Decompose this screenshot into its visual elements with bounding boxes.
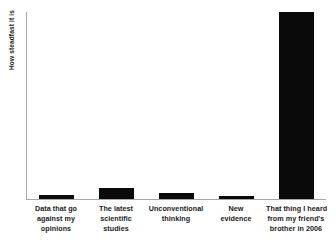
bar-slot	[266, 12, 326, 199]
plot-area	[26, 12, 326, 200]
bar-chart-figure: How steadfast it is Data that goagainst …	[0, 0, 335, 248]
x-tick-label-line: studies	[86, 224, 146, 234]
x-tick-label-line: from my friend's	[266, 214, 326, 224]
x-tick-label-0: Data that goagainst myopinions	[26, 204, 86, 235]
bar-slot	[146, 12, 206, 199]
x-tick-label-line: Unconventional	[146, 204, 206, 214]
bar-1	[99, 188, 134, 199]
bar-slot	[86, 12, 146, 199]
x-tick-label-line: opinions	[26, 224, 86, 234]
x-tick-label-3: Newevidence	[206, 204, 266, 235]
x-tick-label-line: That thing I heard	[266, 204, 326, 214]
x-tick-label-line: scientific	[86, 214, 146, 224]
bar-2	[159, 193, 194, 199]
bar-4	[279, 12, 314, 199]
x-tick-label-4: That thing I heardfrom my friend'sbrothe…	[266, 204, 326, 235]
x-tick-label-line: evidence	[206, 214, 266, 224]
bar-0	[39, 195, 74, 199]
x-tick-label-line: thinking	[146, 214, 206, 224]
x-tick-label-line: against my	[26, 214, 86, 224]
x-axis-tick-labels: Data that goagainst myopinions The lates…	[26, 204, 326, 235]
x-tick-label-line: brother in 2006	[266, 224, 326, 234]
x-tick-label-2: Unconventionalthinking	[146, 204, 206, 235]
bar-slot	[206, 12, 266, 199]
x-axis-spine	[26, 199, 326, 200]
bar-3	[219, 196, 254, 199]
bar-slot	[26, 12, 86, 199]
y-axis-label: How steadfast it is	[8, 0, 15, 70]
bar-series	[26, 12, 326, 199]
x-tick-label-line: Data that go	[26, 204, 86, 214]
x-tick-label-1: The latestscientificstudies	[86, 204, 146, 235]
x-tick-label-line: New	[206, 204, 266, 214]
x-tick-label-line: The latest	[86, 204, 146, 214]
